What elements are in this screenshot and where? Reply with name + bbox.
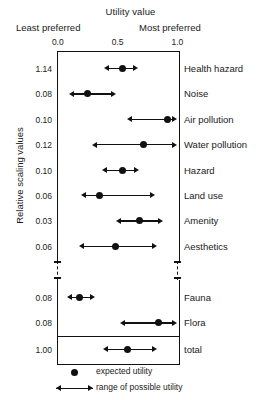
range-arrow-left-icon	[116, 218, 121, 224]
table-row: 0.12Water pollution	[0, 133, 261, 156]
relative-scaling-value: 0.10	[18, 166, 52, 176]
least-preferred-label: Least preferred	[16, 22, 80, 33]
expected-utility-dot	[112, 243, 119, 250]
category-label: Noise	[184, 88, 208, 99]
range-arrow-right-icon	[152, 243, 157, 249]
table-row: 0.03Amenity	[0, 209, 261, 232]
category-label: total	[184, 344, 202, 355]
legend-arrow-right-icon	[88, 385, 93, 391]
category-label: Air pollution	[184, 114, 234, 125]
range-arrow-left-icon	[79, 243, 84, 249]
x-tick-label: 0.5	[112, 37, 124, 47]
table-row: 0.08Flora	[0, 311, 261, 334]
range-arrow-right-icon	[172, 116, 177, 122]
range-arrow-left-icon	[67, 294, 72, 300]
range-arrow-right-icon	[172, 142, 177, 148]
category-label: Water pollution	[184, 139, 247, 150]
relative-scaling-value: 0.10	[18, 115, 52, 125]
expected-utility-dot	[76, 294, 83, 301]
most-preferred-label: Most preferred	[139, 22, 201, 33]
range-arrow-left-icon	[104, 65, 109, 71]
category-label: Fauna	[184, 292, 211, 303]
range-arrow-right-icon	[150, 192, 155, 198]
range-arrow-right-icon	[152, 346, 157, 352]
category-label: Health hazard	[184, 63, 243, 74]
table-row: 0.06Aesthetics	[0, 235, 261, 258]
category-label: Amenity	[184, 215, 218, 226]
legend-expected-utility-label: expected utility	[96, 366, 152, 376]
expected-utility-dot	[124, 346, 131, 353]
range-arrow-left-icon	[69, 91, 74, 97]
axis-break-cap	[54, 277, 61, 279]
range-arrow-left-icon	[92, 142, 97, 148]
relative-scaling-value: 0.06	[18, 242, 52, 252]
x-tick-label: 0.0	[52, 37, 64, 47]
table-row: 1.00total	[0, 338, 261, 361]
table-row: 0.06Land use	[0, 184, 261, 207]
table-row: 0.10Air pollution	[0, 108, 261, 131]
legend-dot-marker-icon	[71, 369, 78, 376]
range-line	[95, 144, 174, 145]
axis-break-cap	[54, 261, 61, 263]
range-arrow-left-icon	[120, 320, 125, 326]
category-label: Aesthetics	[184, 241, 228, 252]
legend-range-label: range of possible utility	[96, 382, 182, 392]
x-axis-title: Utility value	[0, 6, 261, 17]
expected-utility-dot	[136, 217, 143, 224]
range-line	[72, 93, 114, 94]
range-arrow-right-icon	[158, 218, 163, 224]
category-label: Land use	[184, 190, 223, 201]
expected-utility-dot	[164, 116, 171, 123]
x-axis-tick-labels: 0.00.51.0	[0, 37, 261, 49]
table-row: 0.08Noise	[0, 82, 261, 105]
x-tick-label: 1.0	[171, 37, 183, 47]
expected-utility-dot	[96, 192, 103, 199]
expected-utility-dot	[155, 319, 162, 326]
relative-scaling-value: 1.14	[18, 64, 52, 74]
table-row: 1.14Health hazard	[0, 57, 261, 80]
relative-scaling-value: 0.12	[18, 140, 52, 150]
table-row: 0.10Hazard	[0, 159, 261, 182]
table-row: 0.08Fauna	[0, 286, 261, 309]
expected-utility-dot	[119, 65, 126, 72]
range-arrow-right-icon	[134, 167, 139, 173]
relative-scaling-value: 1.00	[18, 345, 52, 355]
relative-scaling-value: 0.06	[18, 191, 52, 201]
range-arrow-left-icon	[102, 167, 107, 173]
axis-break-cap	[174, 277, 181, 279]
range-arrow-right-icon	[90, 294, 95, 300]
range-arrow-right-icon	[133, 65, 138, 71]
range-arrow-left-icon	[127, 116, 132, 122]
relative-scaling-value: 0.08	[18, 293, 52, 303]
range-arrow-right-icon	[111, 91, 116, 97]
category-label: Flora	[184, 317, 206, 328]
expected-utility-dot	[119, 167, 126, 174]
axis-break-cap	[174, 261, 181, 263]
category-label: Hazard	[184, 165, 215, 176]
range-arrow-left-icon	[103, 346, 108, 352]
range-arrow-right-icon	[172, 320, 177, 326]
relative-scaling-value: 0.03	[18, 216, 52, 226]
expected-utility-dot	[140, 141, 147, 148]
expected-utility-dot	[84, 90, 91, 97]
range-line	[123, 322, 174, 323]
chart-figure: Utility value Least preferred Most prefe…	[0, 0, 261, 400]
range-arrow-left-icon	[81, 192, 86, 198]
legend-arrow-left-icon	[56, 385, 61, 391]
relative-scaling-value: 0.08	[18, 318, 52, 328]
relative-scaling-value: 0.08	[18, 89, 52, 99]
range-line	[84, 195, 152, 196]
